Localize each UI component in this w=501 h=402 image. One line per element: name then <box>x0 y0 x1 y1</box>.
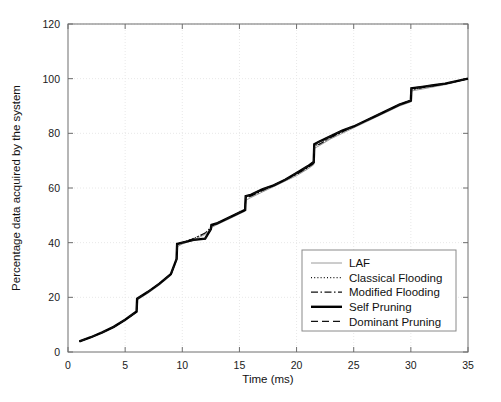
x-tick-label: 25 <box>348 359 360 371</box>
x-tick-label: 5 <box>122 359 128 371</box>
x-tick-label: 20 <box>291 359 303 371</box>
y-tick-label: 60 <box>48 182 60 194</box>
chart-legend: LAFClassical FloodingModified FloodingSe… <box>302 250 456 331</box>
y-tick-label: 100 <box>42 73 60 85</box>
y-tick-label: 20 <box>48 291 60 303</box>
x-tick-label: 30 <box>405 359 417 371</box>
x-tick-label: 35 <box>462 359 474 371</box>
x-tick-label: 0 <box>65 359 71 371</box>
y-tick-label: 120 <box>42 18 60 30</box>
legend-label: LAF <box>349 257 370 269</box>
legend-label: Dominant Pruning <box>349 316 441 328</box>
legend-label: Classical Flooding <box>349 272 442 284</box>
chart-canvas: 02040608010012005101520253035 LAFClassic… <box>0 0 501 402</box>
y-tick-label: 0 <box>54 346 60 358</box>
legend-label: Modified Flooding <box>349 286 440 298</box>
y-tick-label: 80 <box>48 127 60 139</box>
x-tick-label: 15 <box>234 359 246 371</box>
legend-label: Self Pruning <box>349 301 412 313</box>
x-tick-label: 10 <box>176 359 188 371</box>
y-axis-label: Percentage data acquired by the system <box>10 85 22 291</box>
y-tick-label: 40 <box>48 237 60 249</box>
x-axis-label: Time (ms) <box>242 373 293 385</box>
chart-figure: 02040608010012005101520253035 LAFClassic… <box>0 0 501 402</box>
